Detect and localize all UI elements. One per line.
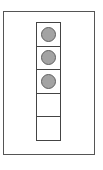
cell-column — [36, 22, 61, 141]
column-cell — [37, 47, 60, 71]
filled-disc-icon — [41, 74, 56, 89]
column-cell — [37, 23, 60, 47]
column-cell — [37, 94, 60, 118]
column-cell — [37, 117, 60, 141]
filled-disc-icon — [41, 50, 56, 65]
column-cell — [37, 70, 60, 94]
filled-disc-icon — [41, 27, 56, 42]
